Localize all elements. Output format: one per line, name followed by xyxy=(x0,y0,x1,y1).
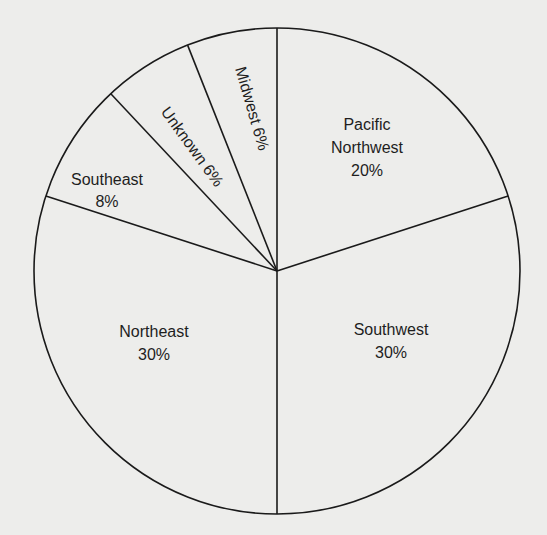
label-pnw-line1: Pacific xyxy=(343,116,390,133)
pie-chart: Pacific Northwest 20% Southwest 30% Nort… xyxy=(0,0,547,535)
label-pnw-line2: Northwest xyxy=(331,139,404,156)
slice-label-southwest: Southwest 30% xyxy=(354,321,429,361)
boundary-pnw-southwest xyxy=(277,196,508,271)
pie-slices xyxy=(34,28,520,514)
label-southeast-pct: 8% xyxy=(95,193,118,210)
label-southwest-name: Southwest xyxy=(354,321,429,338)
slice-label-southeast: Southeast 8% xyxy=(71,171,144,210)
label-pnw-pct: 20% xyxy=(351,162,383,179)
label-northeast-pct: 30% xyxy=(138,346,170,363)
slice-label-pacific-northwest: Pacific Northwest 20% xyxy=(331,116,404,179)
label-southwest-pct: 30% xyxy=(375,344,407,361)
slice-label-northeast: Northeast 30% xyxy=(119,323,189,363)
label-northeast-name: Northeast xyxy=(119,323,189,340)
label-southeast-name: Southeast xyxy=(71,171,144,188)
label-midwest: Midwest 6% xyxy=(232,65,272,153)
